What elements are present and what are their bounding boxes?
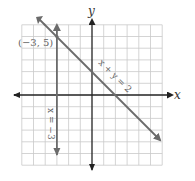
line2-label: x = −3: [46, 108, 56, 140]
x-axis-left-arrow-icon: [13, 92, 20, 98]
line-x-neg3-down-arrow-icon: [53, 148, 60, 156]
x-axis-label: x: [174, 88, 181, 102]
y-axis-label: y: [87, 4, 95, 18]
point-label: (−3, 5): [18, 37, 53, 48]
point-neg3-5: [55, 35, 58, 38]
coordinate-plane: x y (−3, 5) x + y = 2 x = −3: [0, 0, 195, 181]
line-x-plus-y-equals-2: [44, 24, 160, 140]
y-axis-down-arrow-icon: [89, 164, 95, 171]
